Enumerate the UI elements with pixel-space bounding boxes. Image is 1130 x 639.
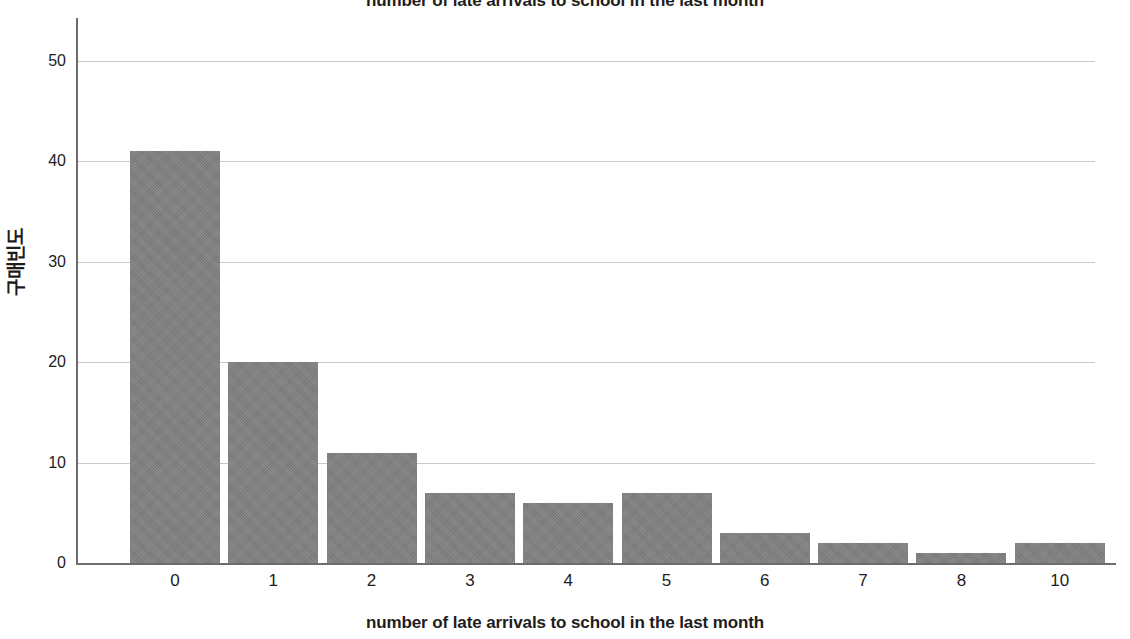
x-axis-tick-label: 5: [622, 571, 712, 591]
x-axis-tick-label: 8: [916, 571, 1006, 591]
bar: [720, 533, 810, 563]
bar: [425, 493, 515, 563]
x-axis-tick-label: 10: [1015, 571, 1105, 591]
x-axis-tick-label: 2: [327, 571, 417, 591]
bars-layer: [76, 41, 1120, 563]
y-axis-tick-labels: 01020304050: [18, 41, 66, 564]
x-axis-tick-label: 4: [523, 571, 613, 591]
y-axis-tick-label: 40: [26, 152, 66, 170]
x-axis-tick-labels: 01234567810: [76, 571, 1120, 601]
y-axis-tick-label: 20: [26, 353, 66, 371]
bar: [916, 553, 1006, 563]
x-axis-tick-label: 6: [720, 571, 810, 591]
bar: [622, 493, 712, 563]
x-axis-tick-label: 3: [425, 571, 515, 591]
bar: [130, 151, 220, 563]
bar: [1015, 543, 1105, 563]
y-axis-tick-label: 50: [26, 52, 66, 70]
y-axis-tick-label: 0: [26, 554, 66, 572]
x-axis-baseline: [76, 563, 1116, 565]
y-axis-tick-label: 10: [26, 454, 66, 472]
bar-chart-figure: number of late arrivals to school in the…: [0, 0, 1130, 639]
bar: [523, 503, 613, 563]
bar: [327, 453, 417, 563]
y-axis-tick-label: 30: [26, 253, 66, 271]
x-axis-tick-label: 1: [228, 571, 318, 591]
chart-title: number of late arrivals to school in the…: [0, 0, 1130, 11]
x-axis-tick-label: 7: [818, 571, 908, 591]
x-axis-title: number of late arrivals to school in the…: [0, 613, 1130, 633]
bar: [228, 362, 318, 563]
x-axis-tick-label: 0: [130, 571, 220, 591]
bar: [818, 543, 908, 563]
